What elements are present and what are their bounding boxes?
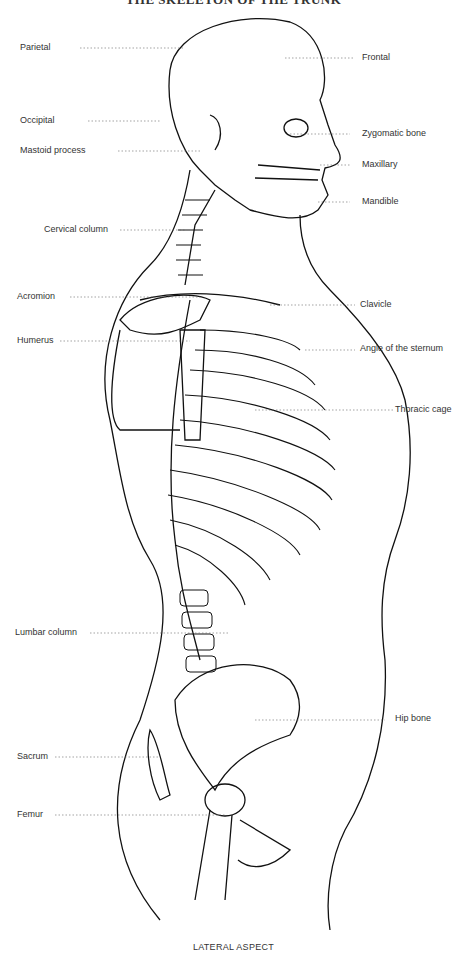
label-occipital: Occipital — [20, 115, 55, 125]
label-femur: Femur — [17, 809, 43, 819]
label-clavicle: Clavicle — [360, 299, 392, 309]
figure-caption: LATERAL ASPECT — [0, 942, 467, 952]
label-zygomatic-bone: Zygomatic bone — [362, 128, 426, 138]
label-acromion: Acromion — [17, 291, 55, 301]
label-sacrum: Sacrum — [17, 751, 48, 761]
label-thoracic-cage: Thoracic cage — [395, 404, 452, 414]
label-lumbar-column: Lumbar column — [15, 627, 77, 637]
label-cervical-column: Cervical column — [44, 224, 108, 234]
label-mastoid-process: Mastoid process — [20, 145, 86, 155]
label-humerus: Humerus — [17, 335, 54, 345]
label-parietal: Parietal — [20, 42, 51, 52]
label-maxillary: Maxillary — [362, 159, 398, 169]
label-hip-bone: Hip bone — [395, 713, 431, 723]
label-angle-of-the-sternum: Angle of the sternum — [360, 343, 443, 353]
label-frontal: Frontal — [362, 52, 390, 62]
label-mandible: Mandible — [362, 196, 399, 206]
